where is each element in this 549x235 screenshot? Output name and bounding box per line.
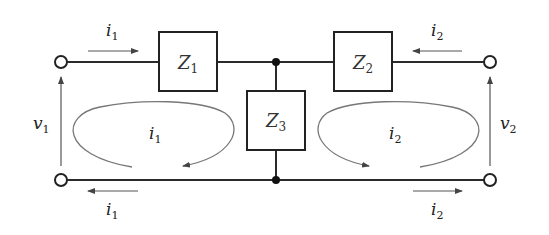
terminal-top-right <box>484 56 496 68</box>
voltage-v2-label: v2 <box>500 113 517 136</box>
circuit-diagram: Z1 Z2 Z3 v1 v2 i1 i2 i1 i2 i1 i2 <box>0 0 549 235</box>
mesh-loop-right-label: i2 <box>389 123 401 146</box>
top-junction-node <box>272 58 280 66</box>
voltage-v1-label: v1 <box>33 113 50 136</box>
terminal-bottom-right <box>484 174 496 186</box>
current-bottom-left-label: i1 <box>106 199 118 222</box>
mesh-loop-left-label: i1 <box>149 123 161 146</box>
terminal-bottom-left <box>55 174 67 186</box>
current-bottom-right-label: i2 <box>431 199 443 222</box>
current-top-right-label: i2 <box>431 20 443 43</box>
terminal-top-left <box>55 56 67 68</box>
bottom-junction-node <box>272 176 280 184</box>
current-top-left-label: i1 <box>106 20 118 43</box>
